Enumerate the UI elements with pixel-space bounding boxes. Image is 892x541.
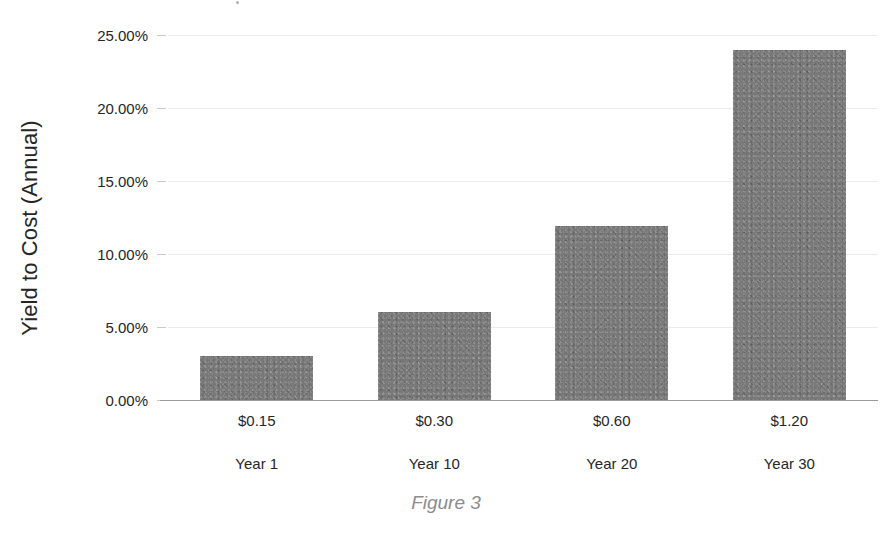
y-axis-tick-label: 15.00% xyxy=(28,173,148,190)
figure-caption: Figure 3 xyxy=(0,492,892,514)
x-axis-price-label: $1.20 xyxy=(733,412,846,429)
x-axis-year-label: Year 10 xyxy=(378,455,491,472)
scan-speckle-artifact xyxy=(236,1,239,4)
y-axis-tick-label: 0.00% xyxy=(28,392,148,409)
y-axis-tick-label: 20.00% xyxy=(28,100,148,117)
y-axis-tick-mark xyxy=(157,327,166,328)
y-axis-tick-mark xyxy=(157,35,166,36)
bar xyxy=(200,356,313,400)
x-axis-year-label: Year 30 xyxy=(733,455,846,472)
y-axis-tick-label: 25.00% xyxy=(28,27,148,44)
x-axis-price-label: $0.15 xyxy=(200,412,313,429)
plot-area xyxy=(168,35,878,400)
bar xyxy=(378,312,491,400)
y-axis-tick-label: 10.00% xyxy=(28,246,148,263)
figure-3-bar-chart: Yield to Cost (Annual) 0.00%5.00%10.00%1… xyxy=(0,0,892,541)
y-axis-tick-mark xyxy=(157,108,166,109)
x-axis-year-label: Year 20 xyxy=(555,455,668,472)
x-axis-year-label: Year 1 xyxy=(200,455,313,472)
y-axis-tick-mark xyxy=(157,254,166,255)
bar xyxy=(555,226,668,400)
y-axis-tick-mark xyxy=(157,181,166,182)
x-axis-price-label: $0.30 xyxy=(378,412,491,429)
bar xyxy=(733,50,846,400)
y-axis-tick-label: 5.00% xyxy=(28,319,148,336)
x-axis-price-label: $0.60 xyxy=(555,412,668,429)
x-axis-line xyxy=(160,400,878,401)
gridline xyxy=(168,35,878,36)
